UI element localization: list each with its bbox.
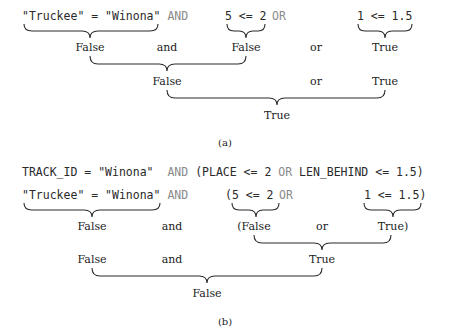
condition-2: (5 <= 2 xyxy=(225,188,273,202)
operator-and-2: and xyxy=(162,253,183,267)
caption-a: (a) xyxy=(218,137,232,148)
brace-icon xyxy=(358,24,412,38)
brace-icon xyxy=(24,203,160,217)
panel-a-code-line: "Truckee" = "Winona" AND xyxy=(22,9,188,23)
or-keyword: OR xyxy=(272,9,286,23)
condition-1: "Truckee" = "Winona" xyxy=(22,9,160,23)
expr-and-keyword: AND xyxy=(167,165,188,179)
brace-icon xyxy=(364,203,421,217)
brace-icon xyxy=(92,268,322,283)
expr-condition-3: LEN_BEHIND <= 1.5) xyxy=(299,165,424,179)
result-and: False xyxy=(152,75,181,89)
operator-or-2: or xyxy=(310,75,322,89)
condition-1: "Truckee" = "Winona" xyxy=(22,188,160,202)
brace-icon xyxy=(24,24,158,38)
expr-condition-2: (PLACE <= 2 xyxy=(195,165,271,179)
final-result-a: True xyxy=(264,109,290,123)
expr-or-keyword: OR xyxy=(278,165,292,179)
result-3: True) xyxy=(378,220,408,234)
brace-icon xyxy=(90,56,246,71)
brace-icon xyxy=(227,24,265,38)
and-keyword: AND xyxy=(167,188,188,202)
final-result-b: False xyxy=(192,287,221,301)
brace-icon xyxy=(167,90,385,105)
result-or: True xyxy=(309,253,335,267)
condition-2: 5 <= 2 xyxy=(225,9,267,23)
condition-3: 1 <= 1.5) xyxy=(364,188,426,202)
brace-icon xyxy=(232,203,279,217)
or-keyword: OR xyxy=(279,188,293,202)
result-1: False xyxy=(77,220,106,234)
expr-condition-1: TRACK_ID = "Winona" xyxy=(22,165,154,179)
brace-icon xyxy=(254,235,391,250)
panel-b-code-line: "Truckee" = "Winona" AND xyxy=(22,188,188,202)
operator-and: and xyxy=(157,41,178,55)
result-2: (False xyxy=(237,220,270,234)
condition-3: 1 <= 1.5 xyxy=(357,9,412,23)
result-1: False xyxy=(75,41,104,55)
operator-or: or xyxy=(316,220,328,234)
expression-line: TRACK_ID = "Winona" AND (PLACE <= 2 OR L… xyxy=(22,165,424,179)
result-2: False xyxy=(231,41,260,55)
and-keyword: AND xyxy=(167,9,188,23)
operator-or: or xyxy=(310,41,322,55)
result-3-carry: True xyxy=(372,75,398,89)
result-1-carry: False xyxy=(77,253,106,267)
operator-and: and xyxy=(162,220,183,234)
result-3: True xyxy=(372,41,398,55)
caption-b: (b) xyxy=(218,316,232,327)
